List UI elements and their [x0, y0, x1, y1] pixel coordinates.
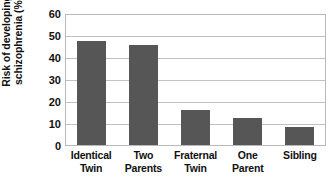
- x-tick-label-two-parents: Two Parents: [117, 149, 169, 175]
- x-axis-tick-labels: Identical Twin Two Parents Fraternal Twi…: [65, 149, 326, 175]
- x-label-line: Parents: [117, 162, 169, 175]
- y-tick-label: 40: [33, 52, 61, 64]
- y-axis-tick-labels: 60 50 40 30 20 10 0: [33, 8, 61, 146]
- bar-two-parents[interactable]: [129, 45, 158, 145]
- y-tick-label: 10: [33, 118, 61, 130]
- x-tick-label-fraternal-twin: Fraternal Twin: [169, 149, 221, 175]
- x-label-line: Two: [117, 149, 169, 162]
- x-label-line: Twin: [65, 162, 117, 175]
- chart-title: [0, 0, 332, 1]
- bar-sibling[interactable]: [285, 127, 314, 145]
- x-label-line: Parent: [222, 162, 274, 175]
- y-tick-label: 30: [33, 74, 61, 86]
- bars-layer: [66, 15, 325, 145]
- x-tick-label-one-parent: One Parent: [222, 149, 274, 175]
- x-label-line: One: [222, 149, 274, 162]
- y-tick-label: 20: [33, 96, 61, 108]
- bar-one-parent[interactable]: [233, 118, 262, 145]
- bar-slot: [66, 15, 118, 145]
- x-tick-label-identical-twin: Identical Twin: [65, 149, 117, 175]
- y-tick-label: 50: [33, 30, 61, 42]
- y-axis-title-line-1: Risk of developing: [0, 0, 12, 87]
- x-label-line: Identical: [65, 149, 117, 162]
- y-axis-title-line-2: schizophrenia (%): [12, 0, 25, 85]
- plot-area: [65, 14, 326, 146]
- y-tick-label: 0: [33, 140, 61, 152]
- bar-slot: [118, 15, 170, 145]
- y-tick-label: 60: [33, 8, 61, 20]
- bar-identical-twin[interactable]: [77, 41, 106, 145]
- x-label-line: Sibling: [274, 149, 326, 162]
- bar-chart: Risk of developing schizophrenia (%) 60 …: [0, 0, 332, 189]
- bar-slot: [221, 15, 273, 145]
- bar-slot: [170, 15, 222, 145]
- x-label-line: Twin: [169, 162, 221, 175]
- bar-slot: [273, 15, 325, 145]
- x-tick-label-sibling: Sibling: [274, 149, 326, 175]
- x-label-line: Fraternal: [169, 149, 221, 162]
- y-axis-title: Risk of developing schizophrenia (%): [0, 0, 25, 105]
- bar-fraternal-twin[interactable]: [181, 110, 210, 145]
